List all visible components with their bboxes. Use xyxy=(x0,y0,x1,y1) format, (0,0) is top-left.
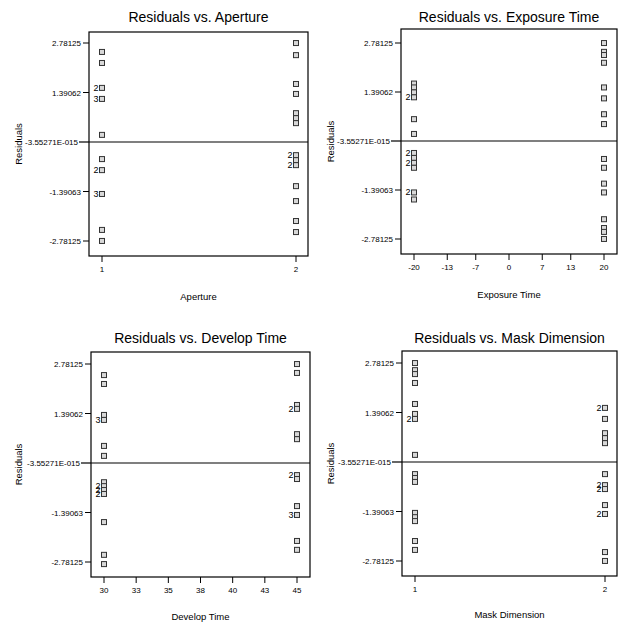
data-point-marker xyxy=(294,116,299,121)
data-point-marker xyxy=(294,230,299,235)
x-tick-label: 40 xyxy=(228,586,237,595)
x-tick-label: -13 xyxy=(441,263,453,272)
data-point-marker xyxy=(413,401,418,406)
data-point-marker xyxy=(412,150,417,155)
data-point-marker xyxy=(294,111,299,116)
x-tick-label: 30 xyxy=(100,586,109,595)
data-point-marker xyxy=(294,53,299,58)
data-point-marker xyxy=(413,411,418,416)
chart-develop-time: Residuals vs. Develop Time2.781251.39062… xyxy=(13,330,310,622)
data-point-marker xyxy=(412,95,417,100)
data-point-marker xyxy=(294,219,299,224)
data-point-marker xyxy=(602,96,607,101)
overlap-count-label: 2 xyxy=(288,404,293,414)
data-point-marker xyxy=(412,190,417,195)
plot-frame xyxy=(89,32,308,256)
data-point-marker xyxy=(295,406,300,411)
y-tick-label: -2.78125 xyxy=(51,558,83,567)
data-point-marker xyxy=(603,487,608,492)
chart-title: Residuals vs. Aperture xyxy=(128,9,268,25)
data-point-marker xyxy=(413,479,418,484)
overlap-count-label: 2 xyxy=(93,165,98,175)
y-tick-label: -1.39063 xyxy=(362,508,394,517)
x-tick-label: 2 xyxy=(294,265,299,274)
data-point-marker xyxy=(413,361,418,366)
plot-frame xyxy=(402,351,617,576)
data-point-marker xyxy=(295,504,300,509)
data-point-marker xyxy=(413,539,418,544)
data-point-marker xyxy=(602,165,607,170)
overlap-count-label: 3 xyxy=(288,510,293,520)
data-point-marker xyxy=(603,550,608,555)
overlap-count-label: 2 xyxy=(596,509,601,519)
x-tick-label: -20 xyxy=(408,263,420,272)
data-point-marker xyxy=(100,227,105,232)
data-point-marker xyxy=(602,85,607,90)
chart-title: Residuals vs. Exposure Time xyxy=(419,9,600,25)
x-tick-label: 45 xyxy=(293,586,302,595)
data-point-marker xyxy=(603,511,608,516)
overlap-count-label: 3 xyxy=(95,415,100,425)
data-point-marker xyxy=(603,503,608,508)
data-point-marker xyxy=(412,160,417,165)
data-points: 3222223 xyxy=(95,362,299,567)
data-point-marker xyxy=(294,41,299,46)
overlap-count-label: 2 xyxy=(405,92,410,102)
x-tick-label: 20 xyxy=(600,263,609,272)
overlap-count-label: 2 xyxy=(405,148,410,158)
chart-mask-dimension: Residuals vs. Mask Dimension2.781251.390… xyxy=(325,330,617,620)
y-axis-label: Residuals xyxy=(13,123,24,165)
data-point-marker xyxy=(294,81,299,86)
data-point-marker xyxy=(295,362,300,367)
data-point-marker xyxy=(294,199,299,204)
data-point-marker xyxy=(603,416,608,421)
x-tick-label: -7 xyxy=(472,263,480,272)
data-point-marker xyxy=(102,520,107,525)
overlap-count-label: 2 xyxy=(406,414,411,424)
y-tick-label: -3.55271E-015 xyxy=(25,138,78,147)
data-point-marker xyxy=(412,85,417,90)
data-point-marker xyxy=(100,49,105,54)
x-axis-label: Develop Time xyxy=(171,611,229,622)
data-point-marker xyxy=(412,197,417,202)
data-point-marker xyxy=(602,53,607,58)
data-point-marker xyxy=(100,85,105,90)
y-tick-label: -2.78125 xyxy=(361,235,393,244)
y-tick-label: 1.39062 xyxy=(365,409,394,418)
data-point-marker xyxy=(602,236,607,241)
data-point-marker xyxy=(412,117,417,122)
y-tick-label: -2.78125 xyxy=(362,557,394,566)
overlap-count-label: 2 xyxy=(405,158,410,168)
data-point-marker xyxy=(602,181,607,186)
y-tick-label: -1.39063 xyxy=(51,509,83,518)
x-tick-label: 2 xyxy=(603,585,608,594)
data-point-marker xyxy=(295,477,300,482)
chart-aperture: Residuals vs. Aperture2.781251.39062-3.5… xyxy=(13,9,308,302)
data-point-marker xyxy=(603,436,608,441)
y-tick-label: -3.55271E-015 xyxy=(337,137,390,146)
data-point-marker xyxy=(413,380,418,385)
data-point-marker xyxy=(100,96,105,101)
overlap-count-label: 2 xyxy=(405,187,410,197)
data-point-marker xyxy=(102,443,107,448)
charts-canvas: Residuals vs. Aperture2.781251.39062-3.5… xyxy=(0,0,628,632)
overlap-count-label: 3 xyxy=(93,189,98,199)
y-tick-label: 1.39062 xyxy=(52,89,81,98)
x-axis-label: Aperture xyxy=(180,291,216,302)
data-point-marker xyxy=(294,163,299,168)
data-point-marker xyxy=(602,112,607,117)
data-point-marker xyxy=(412,155,417,160)
overlap-count-label: 2 xyxy=(596,484,601,494)
y-tick-label: 1.39062 xyxy=(364,88,393,97)
x-tick-label: 1 xyxy=(100,265,105,274)
data-point-marker xyxy=(602,122,607,127)
data-point-marker xyxy=(413,452,418,457)
y-tick-label: -2.78125 xyxy=(49,237,81,246)
overlap-count-label: 2 xyxy=(93,83,98,93)
x-tick-label: 43 xyxy=(260,586,269,595)
data-point-marker xyxy=(413,416,418,421)
data-point-marker xyxy=(295,538,300,543)
x-tick-label: 33 xyxy=(132,586,141,595)
data-point-marker xyxy=(100,168,105,173)
data-point-marker xyxy=(100,60,105,65)
